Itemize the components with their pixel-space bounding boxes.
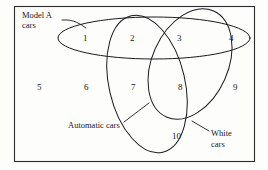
region-label-9: 9 xyxy=(233,82,238,92)
set-label-model-a-cars-line2: cars xyxy=(22,20,36,30)
set-label-model-a-cars-line1: Model A xyxy=(22,10,53,20)
region-label-8: 8 xyxy=(178,82,183,92)
region-label-2: 2 xyxy=(130,33,135,43)
set-ellipse-white-cars xyxy=(94,7,200,161)
leader-line-white-cars xyxy=(192,121,209,131)
region-label-1: 1 xyxy=(83,33,88,43)
region-label-7: 7 xyxy=(131,82,136,92)
region-label-6: 6 xyxy=(84,82,89,92)
region-label-4: 4 xyxy=(229,33,234,43)
venn-diagram-container: Model A cars Automatic cars White cars 1… xyxy=(0,0,268,170)
region-label-5: 5 xyxy=(37,82,42,92)
leader-line-automatic-cars xyxy=(124,103,149,122)
set-label-white-cars-line1: White xyxy=(211,128,232,138)
set-label-automatic-cars: Automatic cars xyxy=(68,120,120,130)
set-label-white-cars-line2: cars xyxy=(211,139,225,149)
set-ellipse-automatic-cars xyxy=(132,0,249,132)
region-label-3: 3 xyxy=(177,33,182,43)
venn-diagram-canvas: Model A cars Automatic cars White cars 1… xyxy=(0,0,268,170)
region-label-10: 10 xyxy=(172,131,182,141)
